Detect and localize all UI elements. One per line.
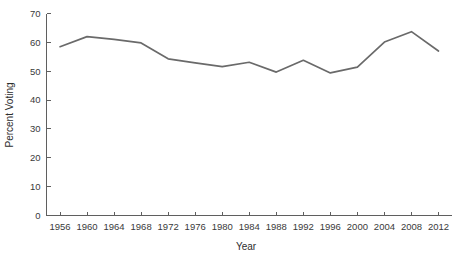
series-line-percent-voting — [60, 32, 438, 73]
y-tick-label: 30 — [30, 123, 41, 134]
x-tick-label: 1976 — [185, 221, 206, 232]
x-tick-label: 1956 — [49, 221, 70, 232]
voter-turnout-line-chart: 010203040506070 195619601964196819721976… — [0, 0, 461, 255]
x-tick-label: 1972 — [158, 221, 179, 232]
x-tick-label: 2008 — [401, 221, 422, 232]
x-tick-label: 1968 — [131, 221, 152, 232]
y-axis-title: Percent Voting — [4, 82, 15, 147]
y-axis: 010203040506070 — [30, 8, 51, 221]
y-tick-label: 40 — [30, 94, 41, 105]
y-tick-label: 0 — [35, 210, 40, 221]
chart-canvas: 010203040506070 195619601964196819721976… — [0, 0, 461, 255]
y-tick-label: 70 — [30, 8, 41, 19]
x-tick-label: 1960 — [76, 221, 97, 232]
x-tick-label: 1992 — [293, 221, 314, 232]
x-tick-label: 2012 — [428, 221, 449, 232]
y-tick-label: 60 — [30, 37, 41, 48]
x-tick-label: 1988 — [266, 221, 287, 232]
y-tick-label: 20 — [30, 152, 41, 163]
x-tick-label: 2004 — [374, 221, 395, 232]
y-tick-label: 50 — [30, 66, 41, 77]
y-tick-label: 10 — [30, 181, 41, 192]
x-tick-label: 1996 — [320, 221, 341, 232]
x-axis-title: Year — [236, 241, 257, 252]
x-axis: 1956196019641968197219761980198419881992… — [47, 212, 453, 232]
x-tick-label: 1984 — [239, 221, 260, 232]
x-tick-label: 1964 — [104, 221, 125, 232]
x-tick-label: 1980 — [212, 221, 233, 232]
data-series-group — [60, 32, 438, 73]
x-tick-label: 2000 — [347, 221, 368, 232]
